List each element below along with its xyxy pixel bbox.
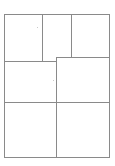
cell-2-2[interactable] — [56, 57, 110, 103]
cell-1-2[interactable] — [42, 14, 72, 62]
cell-2-1[interactable] — [4, 61, 57, 103]
speck-middle-icon — [53, 80, 54, 81]
speck-upper-icon — [37, 27, 38, 28]
cell-3-1[interactable] — [4, 102, 57, 158]
cell-3-2[interactable] — [56, 102, 110, 158]
grid-frame — [4, 14, 110, 158]
wireframe-canvas — [0, 0, 115, 166]
cell-1-3[interactable] — [71, 14, 110, 58]
cell-1-1[interactable] — [4, 14, 43, 62]
